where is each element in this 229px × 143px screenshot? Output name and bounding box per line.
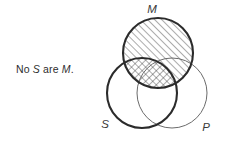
- label-m: M: [147, 3, 157, 15]
- venn-diagram-figure: No S are M.: [0, 0, 229, 143]
- proposition-caption: No S are M.: [16, 63, 74, 75]
- label-p: P: [202, 121, 210, 133]
- caption-suffix: .: [71, 63, 74, 75]
- caption-subject-term: S: [33, 63, 40, 75]
- label-s: S: [101, 118, 109, 130]
- caption-prefix: No: [16, 63, 33, 75]
- caption-predicate-term: M: [62, 63, 71, 75]
- caption-middle-word: are: [40, 63, 62, 75]
